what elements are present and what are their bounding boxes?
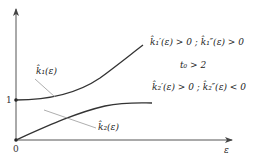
curve-k1-label: k̂₁(ε)	[36, 66, 57, 77]
curve-k2	[16, 103, 152, 140]
curve-k1-condition: k̂₁′(ε) > 0 ; k̂₁″(ε) > 0	[150, 37, 244, 48]
curve-k2-condition: k̂₂′(ε) > 0 ; k̂₂″(ε) < 0	[152, 82, 246, 93]
curve-k2-label: k̂₂(ε)	[98, 122, 119, 133]
x-axis-label: ε	[224, 145, 229, 156]
y-tick-label: 1	[6, 95, 12, 105]
leader-line-k1	[35, 79, 55, 97]
diagram-canvas	[0, 0, 258, 158]
parameter-note: t₀ > 2	[180, 60, 206, 71]
leader-line-k2	[44, 110, 96, 128]
origin-label: 0	[13, 144, 19, 154]
